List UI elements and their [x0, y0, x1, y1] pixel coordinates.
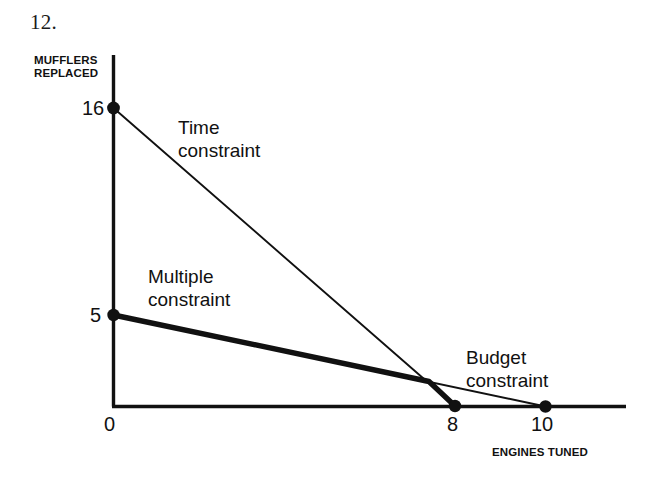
point-marker-y5 [107, 309, 119, 321]
x-tick-label-10: 10 [531, 414, 553, 434]
time-constraint-line [114, 108, 456, 406]
constraint-diagram: 12. MUFFLERS REPLACED ENGINES TUNED 16 5… [0, 0, 659, 488]
y-axis-title: MUFFLERS REPLACED [34, 54, 98, 80]
point-marker-x8 [449, 400, 461, 412]
y-tick-label-16: 16 [82, 98, 104, 118]
x-tick-label-0: 0 [104, 414, 115, 434]
x-tick-label-8: 8 [447, 414, 458, 434]
point-marker-x10 [539, 400, 551, 412]
annotation-time-constraint: Time constraint [178, 116, 260, 162]
annotation-multiple-constraint: Multiple constraint [148, 265, 230, 311]
point-marker-y16 [107, 102, 120, 115]
x-axis-title: ENGINES TUNED [492, 446, 588, 459]
y-tick-label-5: 5 [90, 305, 101, 325]
exercise-number: 12. [30, 12, 57, 33]
plot-canvas [0, 0, 659, 488]
annotation-budget-constraint: Budget constraint [466, 346, 548, 392]
